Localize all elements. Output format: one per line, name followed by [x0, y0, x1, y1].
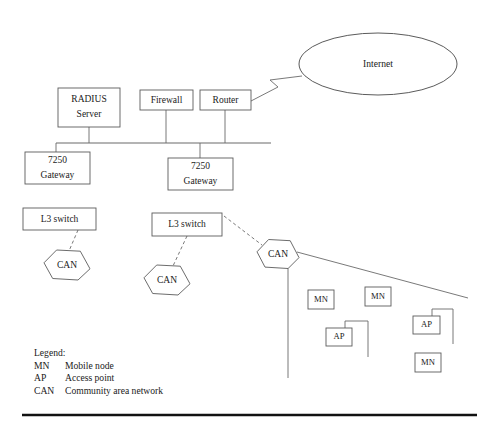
- firewall-label: Firewall: [151, 95, 183, 105]
- mobile-node-3-label: MN: [421, 357, 436, 367]
- router-label: Router: [213, 95, 240, 105]
- legend-item-ap: APAccess point: [34, 372, 163, 385]
- l3-left-to-can-left: [69, 230, 78, 251]
- can-left-label: CAN: [57, 260, 77, 270]
- internet-cloud-layer: Internet: [299, 33, 457, 95]
- internet-cloud-label: Internet: [363, 58, 393, 69]
- gateway-middle-label-line1: 7250: [191, 161, 210, 171]
- legend-item-mn: MNMobile node: [34, 360, 163, 373]
- router-to-internet-bolt: [251, 76, 302, 101]
- legend: Legend: MNMobile node APAccess point CAN…: [34, 347, 163, 397]
- legend-title: Legend:: [34, 347, 163, 360]
- legend-abbr-mn: MN: [34, 360, 65, 373]
- mobile-node-1-label: MN: [314, 294, 329, 304]
- l3-switch-left-label: L3 switch: [41, 214, 79, 224]
- gateway-middle-label-line2: Gateway: [184, 176, 218, 186]
- l3-switch-middle-label: L3 switch: [168, 219, 206, 229]
- radius-server-label-line1: RADIUS: [71, 94, 106, 104]
- radius-server-label-line2: Server: [77, 109, 103, 119]
- mobile-node-2-label: MN: [371, 291, 386, 301]
- lightning-bolt-layer: [251, 76, 302, 101]
- device-box-layer: RADIUSServerFirewallRouter7250Gateway725…: [23, 88, 441, 372]
- can-middle-label: CAN: [157, 275, 177, 285]
- access-point-1-label: AP: [334, 331, 345, 341]
- gateway-left-label-line2: Gateway: [41, 170, 75, 180]
- legend-meaning-ap: Access point: [65, 372, 114, 383]
- can-hexagon-layer: CANCANCAN: [44, 240, 299, 296]
- legend-abbr-can: CAN: [34, 385, 65, 398]
- legend-meaning-can: Community area network: [65, 385, 163, 396]
- can-right-label: CAN: [268, 249, 288, 259]
- gateway-left-label-line1: 7250: [48, 155, 67, 165]
- solid-link-layer: [56, 110, 468, 378]
- network-diagram-figure: Internet CANCANCAN RADIUSServerFirewallR…: [0, 0, 489, 432]
- legend-abbr-ap: AP: [34, 372, 65, 385]
- access-point-2-label: AP: [421, 319, 432, 329]
- legend-meaning-mn: Mobile node: [65, 360, 114, 371]
- legend-item-can: CANCommunity area network: [34, 385, 163, 398]
- l3-middle-to-can-middle: [173, 236, 187, 266]
- l3-middle-to-can-right: [224, 216, 262, 245]
